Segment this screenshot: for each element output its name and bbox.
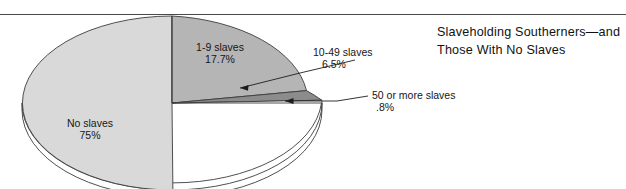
callout-label-10-49-slaves: 10-49 slaves 6.5% (313, 46, 373, 71)
chart-title-line-2: Those With No Slaves (437, 42, 623, 60)
chart-title: Slaveholding Southerners—and Those With … (437, 24, 623, 60)
slice-label-no-slaves-name: No slaves (67, 117, 113, 129)
callout-label-50-or-more-slaves: 50 or more slaves .8% (372, 89, 455, 114)
slice-label-1-9-slaves-name: 1-9 slaves (196, 41, 244, 53)
callout-label-50-or-more-slaves-name: 50 or more slaves (372, 89, 455, 101)
chart-title-line-1: Slaveholding Southerners—and (437, 24, 623, 42)
callout-label-50-or-more-slaves-value: .8% (372, 101, 455, 113)
slice-label-1-9-slaves-value: 17.7% (205, 53, 235, 65)
pie-slice-no-slaves (22, 16, 172, 189)
pie-chart-figure: 1-9 slaves 17.7% No slaves 75% 10-49 sla… (0, 0, 626, 189)
callout-label-10-49-slaves-value: 6.5% (313, 58, 373, 70)
slice-label-no-slaves-value: 75% (79, 129, 100, 141)
pie-slices (22, 16, 322, 189)
callout-label-10-49-slaves-name: 10-49 slaves (313, 46, 373, 58)
slice-label-no-slaves: No slaves 75% (40, 117, 140, 142)
slice-label-1-9-slaves: 1-9 slaves 17.7% (182, 41, 258, 66)
